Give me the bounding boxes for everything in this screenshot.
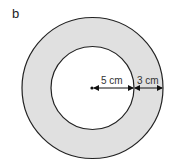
ring-width-label: 3 cm (137, 75, 159, 86)
annulus-diagram: 5 cm 3 cm (0, 0, 175, 161)
inner-radius-label: 5 cm (101, 75, 123, 86)
center-point (90, 86, 93, 89)
